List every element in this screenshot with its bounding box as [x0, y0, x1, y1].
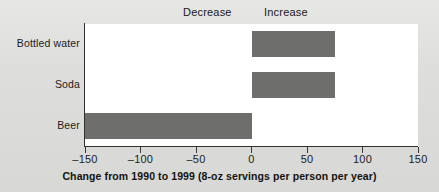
- chart-figure: Decrease Increase Bottled water Soda Bee…: [0, 0, 439, 192]
- y-axis-line: [84, 23, 85, 147]
- x-tick-label--100: –100: [118, 153, 164, 165]
- bar-soda[interactable]: [252, 72, 335, 98]
- x-tick-label--50: –50: [173, 153, 219, 165]
- decrease-annotation: Decrease: [183, 6, 232, 18]
- y-tick-label-bottled-water: Bottled water: [0, 37, 80, 49]
- x-axis-title: Change from 1990 to 1999 (8-oz servings …: [0, 170, 439, 182]
- bar-beer[interactable]: [85, 113, 252, 139]
- x-tick-label-100: 100: [340, 153, 386, 165]
- y-tick-label-beer: Beer: [0, 119, 80, 131]
- x-tick-label-150: 150: [395, 153, 439, 165]
- x-tick-label-50: 50: [284, 153, 330, 165]
- increase-annotation: Increase: [264, 6, 308, 18]
- bar-bottled-water[interactable]: [252, 31, 335, 57]
- x-tick-label-0: 0: [229, 153, 275, 165]
- x-tick-label--150: –150: [62, 153, 108, 165]
- y-tick-label-soda: Soda: [0, 78, 80, 90]
